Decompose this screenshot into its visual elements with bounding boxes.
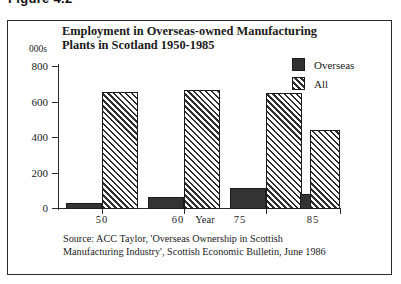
bar-overseas-75: [230, 188, 266, 209]
bar-overseas-60: [148, 197, 184, 210]
source-note: Source: ACC Taylor, 'Overseas Ownership …: [63, 233, 373, 258]
legend-label-all: All: [314, 78, 328, 90]
y-tick-label-400: 400: [14, 132, 48, 143]
legend-swatch-all-icon: [292, 77, 305, 90]
legend-label-overseas: Overseas: [314, 59, 354, 71]
bar-all-50: [102, 92, 138, 209]
x-tick-75: [266, 209, 267, 214]
y-tick-label-0: 0: [14, 203, 48, 214]
source-note-line-2: Manufacturing Industry', Scottish Econom…: [63, 246, 373, 259]
x-tick-label-85: 85: [295, 214, 331, 225]
x-axis-title: Year: [185, 214, 225, 225]
legend-item-overseas: Overseas: [292, 55, 354, 74]
y-tick-0: [52, 208, 59, 209]
y-tick-label-200: 200: [14, 168, 48, 179]
bar-all-85: [310, 130, 340, 209]
chart-legend: Overseas All: [292, 55, 354, 93]
y-tick-label-800: 800: [14, 61, 48, 72]
x-tick-label-75: 75: [222, 214, 258, 225]
y-tick-200: [52, 173, 59, 174]
bar-all-60: [184, 90, 220, 209]
y-tick-label-600: 600: [14, 97, 48, 108]
bar-all-75: [266, 93, 302, 209]
x-tick-85: [340, 209, 341, 214]
y-tick-600: [52, 102, 59, 103]
y-tick-800: [52, 66, 59, 67]
x-tick-label-50: 50: [84, 214, 120, 225]
legend-item-all: All: [292, 74, 354, 93]
bar-overseas-50: [66, 203, 102, 209]
source-note-line-1: Source: ACC Taylor, 'Overseas Ownership …: [63, 233, 373, 246]
legend-swatch-overseas-icon: [292, 58, 305, 71]
y-tick-400: [52, 137, 59, 138]
